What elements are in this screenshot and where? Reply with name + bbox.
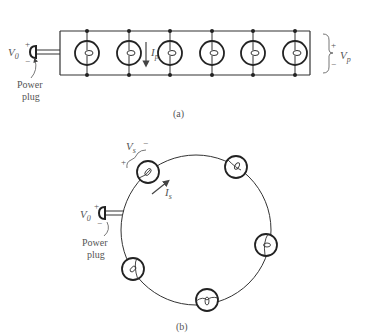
caption-a: (a)	[173, 108, 184, 120]
minus-sign: −	[331, 59, 336, 69]
current-arrow: Is	[152, 182, 172, 201]
bulb-icon	[122, 258, 144, 280]
svg-text:Is: Is	[164, 186, 172, 201]
caption-b: (b)	[176, 321, 188, 333]
bulb-icon	[225, 156, 247, 178]
bulb-icon	[241, 29, 265, 77]
plug-label: Power	[82, 237, 108, 248]
plug-label: plug	[22, 91, 40, 102]
plug-label: plug	[87, 249, 105, 260]
plus-sign: +	[25, 39, 30, 49]
plus-sign: +	[331, 40, 336, 50]
bulb-icon	[137, 161, 159, 183]
circuit-figure: V0 + − Power plug Ip	[0, 0, 367, 336]
pointer-arrow	[31, 60, 36, 78]
plug-label: Power	[17, 79, 43, 90]
bulb-icon	[283, 29, 307, 77]
source-voltage-label: V0	[8, 46, 19, 61]
minus-sign: −	[25, 56, 30, 66]
bulb-icon	[75, 29, 99, 77]
pointer-arrow	[104, 222, 108, 236]
current-arrow: Ip	[146, 42, 159, 64]
bulb-icon	[158, 29, 182, 77]
power-plug-icon	[30, 46, 36, 58]
parallel-circuit: V0 + − Power plug Ip	[8, 29, 351, 120]
bulb-icon	[196, 289, 218, 311]
plus-sign: +	[121, 157, 126, 167]
bulb-icon	[117, 29, 141, 77]
series-circuit: V0 + − Power plug	[80, 138, 277, 333]
bulb-voltage-label: Vp	[340, 49, 351, 64]
plus-sign: +	[94, 201, 99, 211]
bulb-icon	[255, 234, 277, 256]
bulb-icon	[200, 29, 224, 77]
minus-sign: −	[143, 138, 148, 148]
minus-sign: −	[97, 218, 102, 228]
source-voltage-label: V0	[80, 208, 91, 223]
bulb-voltage-label: Vs	[126, 140, 136, 155]
